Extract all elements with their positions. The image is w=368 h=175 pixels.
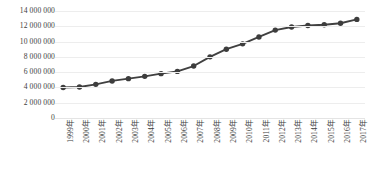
gridline (55, 26, 365, 27)
x-axis-tick-label: 2007年 (197, 119, 205, 143)
line-chart: 14 000 00012 000 00010 000 0008 000 0006… (0, 0, 368, 175)
data-point-marker (109, 78, 114, 83)
y-axis-tick-label: 14 000 000 (20, 7, 55, 15)
y-axis-tick-label: 4 000 000 (24, 83, 55, 91)
y-axis-tick-label: 10 000 000 (20, 38, 55, 46)
x-axis-tick-label: 2015年 (328, 119, 336, 143)
x-axis-tick-label: 2009年 (230, 119, 238, 143)
x-axis-tick-label: 2002年 (116, 119, 124, 143)
gridline (55, 57, 365, 58)
x-axis: 1999年2000年2001年2002年2003年2004年2005年2006年… (55, 119, 365, 175)
gridline (55, 103, 365, 104)
data-point-marker (256, 34, 261, 39)
data-point-marker (142, 74, 147, 79)
x-axis-tick-label: 2011年 (263, 119, 271, 142)
data-point-marker (354, 17, 359, 22)
x-axis-tick-label: 2010年 (246, 119, 254, 143)
data-point-marker (93, 82, 98, 87)
x-axis-tick-label: 2016年 (344, 119, 352, 143)
x-axis-tick-label: 2003年 (132, 119, 140, 143)
y-axis-tick-label: 8 000 000 (24, 53, 55, 61)
y-axis-tick-label: 12 000 000 (20, 22, 55, 30)
x-axis-tick-label: 1999年 (67, 119, 75, 143)
x-axis-tick-label: 2000年 (83, 119, 91, 143)
series-line (63, 19, 357, 87)
x-axis-tick-label: 2001年 (99, 119, 107, 143)
x-axis-tick-label: 2013年 (295, 119, 303, 143)
gridline (55, 72, 365, 73)
x-axis-tick-label: 2017年 (360, 119, 368, 143)
y-axis-tick-label: 6 000 000 (24, 68, 55, 76)
x-axis-tick-label: 2012年 (279, 119, 287, 143)
gridline (55, 42, 365, 43)
plot-area (55, 11, 365, 118)
data-point-marker (126, 76, 131, 81)
data-point-marker (224, 47, 229, 52)
x-axis-tick-label: 2005年 (165, 119, 173, 143)
x-axis-tick-label: 2004年 (148, 119, 156, 143)
data-point-marker (273, 27, 278, 32)
data-point-marker (191, 63, 196, 68)
x-axis-tick-label: 2008年 (214, 119, 222, 143)
data-point-marker (338, 21, 343, 26)
y-axis: 14 000 00012 000 00010 000 0008 000 0006… (0, 0, 55, 175)
x-axis-tick-label: 2014年 (311, 119, 319, 143)
x-axis-tick-label: 2006年 (181, 119, 189, 143)
y-axis-tick-label: 2 000 000 (24, 99, 55, 107)
gridline (55, 87, 365, 88)
gridline (55, 11, 365, 12)
